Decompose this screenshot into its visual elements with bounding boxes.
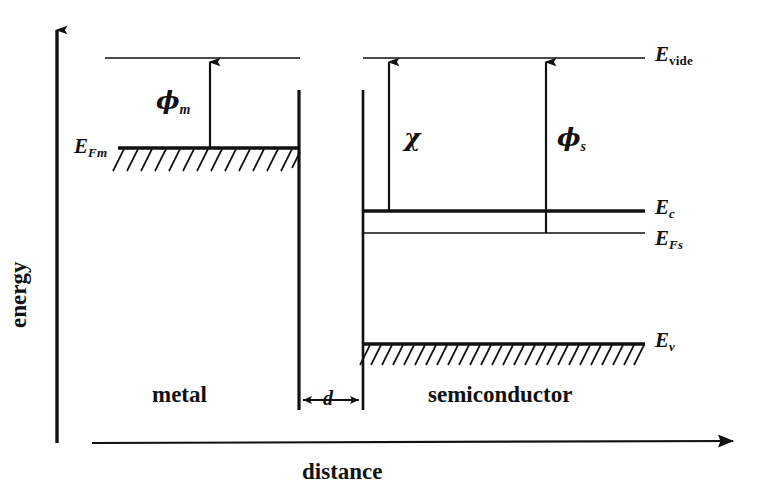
level-label-e-fm: EFm bbox=[74, 136, 107, 159]
level-label-e-fm-symbol: E bbox=[74, 134, 88, 158]
distance-axis bbox=[92, 441, 733, 443]
arrow-label-phi-s-symbol: ϕ bbox=[557, 123, 581, 152]
arrow-label-phi-s-subscript: s bbox=[581, 139, 586, 154]
level-label-e-v: Ev bbox=[655, 330, 675, 353]
arrow-label-chi-symbol: χ bbox=[404, 123, 420, 152]
hatch-valence bbox=[360, 345, 644, 365]
level-label-e-fs: EFs bbox=[655, 228, 683, 251]
level-label-e-v-subscript: v bbox=[669, 339, 675, 354]
level-label-e-v-symbol: E bbox=[655, 328, 669, 352]
distance-axis-label: distance bbox=[302, 460, 383, 483]
gap-label-d: d bbox=[323, 388, 333, 408]
level-label-e-fm-subscript: Fm bbox=[88, 145, 107, 160]
level-label-e-c: Ec bbox=[655, 197, 675, 220]
level-label-e-vide-symbol: E bbox=[655, 42, 669, 66]
region-label-metal: metal bbox=[152, 383, 207, 406]
arrow-label-phi-m-subscript: m bbox=[180, 102, 191, 117]
energy-band-diagram: energy distance EFm Evide Ec EFs Ev ϕm χ… bbox=[0, 0, 772, 500]
arrow-label-phi-m-symbol: ϕ bbox=[156, 86, 180, 115]
distance-axis-line bbox=[92, 441, 733, 443]
level-label-e-vide-subscript: vide bbox=[669, 53, 693, 68]
level-label-e-fs-subscript: Fs bbox=[669, 237, 683, 252]
energy-axis-label: energy bbox=[7, 262, 30, 328]
region-label-semiconductor: semiconductor bbox=[428, 383, 572, 406]
level-label-e-vide: Evide bbox=[655, 44, 693, 67]
level-label-e-c-subscript: c bbox=[669, 206, 675, 221]
level-label-e-fs-symbol: E bbox=[655, 226, 669, 250]
hatch-metal bbox=[113, 149, 300, 171]
arrow-label-phi-m: ϕm bbox=[156, 88, 190, 117]
arrow-label-chi: χ bbox=[404, 125, 420, 154]
level-label-e-c-symbol: E bbox=[655, 195, 669, 219]
arrow-label-phi-s: ϕs bbox=[557, 125, 586, 154]
